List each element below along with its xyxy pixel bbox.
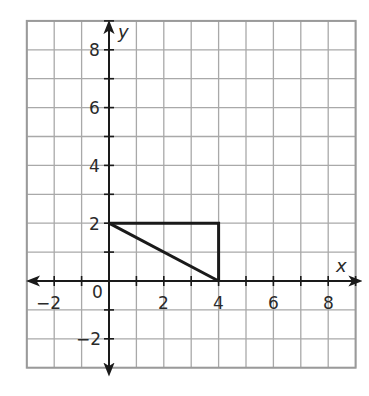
x-tick-label-6: 6: [268, 293, 279, 313]
x-tick-label-2: 2: [158, 293, 169, 313]
grid-lines: [27, 21, 356, 368]
x-tick-label-4: 4: [213, 293, 224, 313]
y-tick-label-6: 6: [89, 98, 100, 118]
y-tick-label-4: 4: [89, 156, 100, 176]
x-tick-label-8: 8: [323, 293, 334, 313]
y-tick-label-8: 8: [89, 40, 100, 60]
y-tick-label-2: 2: [89, 214, 100, 234]
y-tick-label-neg2: −2: [76, 329, 101, 349]
axes: [29, 21, 360, 374]
coordinate-plane: x y 0 −2 2 4 6 8 8 6 4 2 −2: [0, 0, 369, 396]
y-axis-label: y: [117, 21, 129, 42]
x-axis-label: x: [335, 255, 347, 276]
x-tick-label-neg2: −2: [36, 293, 61, 313]
origin-label: 0: [92, 282, 103, 302]
